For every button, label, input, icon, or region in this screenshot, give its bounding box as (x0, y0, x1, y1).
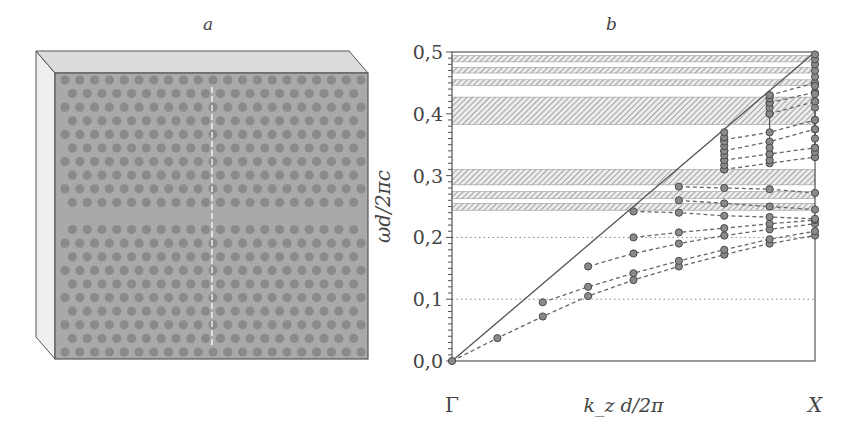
y-axis: 0,00,10,20,30,40,5 (413, 41, 452, 372)
y-tick-label: 0,5 (413, 41, 443, 63)
panel-b-label: b (606, 14, 617, 34)
slab-side-face (36, 51, 55, 359)
slab-illustration (0, 0, 420, 430)
panel-b-band-diagram: b 0,00,10,20,30,40,5ωd/2πcΓXk_z d/2π (360, 0, 858, 430)
y-tick-label: 0,2 (413, 226, 443, 248)
y-tick-label: 0,0 (413, 350, 443, 372)
x-tick-label: X (806, 393, 823, 417)
y-axis-label: ωd/2πc (371, 170, 395, 243)
y-tick-label: 0,3 (413, 165, 443, 187)
x-axis-label: k_z d/2π (583, 394, 664, 417)
y-tick-label: 0,1 (413, 288, 443, 310)
panel-a-slab-illustration: a (0, 0, 420, 430)
y-tick-label: 0,4 (413, 103, 443, 125)
x-tick-label: Γ (445, 393, 459, 417)
panel-a-label: a (203, 14, 213, 34)
slab-top-face (36, 51, 368, 73)
band-gaps (452, 56, 815, 211)
band-structure-chart: 0,00,10,20,30,40,5ωd/2πcΓXk_z d/2π (360, 0, 858, 430)
